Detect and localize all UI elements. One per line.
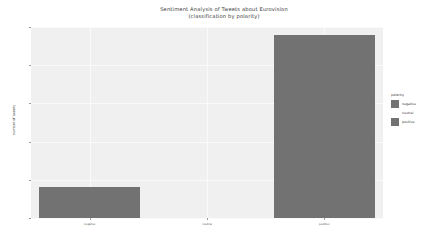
y-axis-label: number of tweets [12,105,16,135]
chart-title: Sentiment Analysis of Tweets about Eurov… [0,6,448,13]
x-tick-label-negative: negative [84,222,96,226]
legend-item-positive[interactable]: positive [391,117,447,126]
legend-swatch-negative [391,100,399,108]
legend-label-positive: positive [402,120,415,124]
x-tick-mark [207,218,208,220]
bar-negative [39,187,140,218]
legend-label-negative: negative [402,102,416,106]
legend-swatch-neutral [391,109,399,117]
legend-entries: negativeneutralpositive [391,99,447,126]
legend-title: polarity [391,93,447,97]
y-tick-mark [29,180,31,181]
legend-swatch-positive [391,118,399,126]
legend-item-neutral[interactable]: neutral [391,108,447,117]
legend: polarity negativeneutralpositive [391,93,447,126]
chart-title-block: Sentiment Analysis of Tweets about Eurov… [0,6,448,20]
chart-subtitle: (classification by polarity) [0,13,448,20]
legend-label-neutral: neutral [402,111,413,115]
x-tick-mark [324,218,325,220]
legend-item-negative[interactable]: negative [391,99,447,108]
x-tick-mark [90,218,91,220]
x-tick-label-neutral: neutral [202,222,212,226]
y-tick-mark [29,27,31,28]
gridline-vertical [207,27,208,218]
x-tick-label-positive: positive [319,222,330,226]
y-tick-mark [29,218,31,219]
bar-positive [274,35,375,218]
plot-panel: 025050075010001250negativeneutralpositiv… [31,27,383,218]
chart-figure: Sentiment Analysis of Tweets about Eurov… [0,0,448,240]
y-tick-mark [29,142,31,143]
y-tick-mark [29,65,31,66]
y-tick-mark [29,103,31,104]
